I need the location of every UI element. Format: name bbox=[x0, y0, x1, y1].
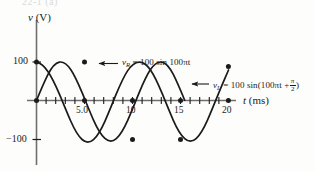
x-tick-label-15: 15 bbox=[174, 106, 184, 116]
data-point bbox=[178, 98, 183, 103]
data-point bbox=[82, 98, 87, 103]
y-tick-label-minus100: −100 bbox=[6, 134, 27, 144]
x-axis-title-unit: (ms) bbox=[249, 94, 269, 106]
y-tick-label-100: 100 bbox=[13, 56, 28, 66]
x-tick-label-10: 10 bbox=[126, 106, 136, 116]
data-point bbox=[178, 137, 183, 142]
x-tick-label-5: 5.0 bbox=[76, 106, 88, 116]
data-point bbox=[34, 98, 39, 103]
data-point bbox=[82, 60, 87, 65]
x-tick-label-20: 20 bbox=[222, 106, 232, 116]
vL-subscript: L bbox=[217, 84, 221, 91]
vR-expression: 100 sin 100πt bbox=[140, 57, 190, 67]
vR-curve bbox=[37, 62, 185, 141]
data-point bbox=[130, 137, 135, 142]
vR-subscript: R bbox=[126, 61, 130, 68]
y-axis-title: v (V) bbox=[28, 12, 51, 23]
vR-equation-label: vR = 100 sin 100πt bbox=[122, 58, 190, 69]
y-axis-title-unit: (V) bbox=[36, 11, 51, 23]
vR-equals: = bbox=[133, 57, 138, 67]
x-axis-title: t (ms) bbox=[243, 95, 269, 106]
vL-expression-prefix: 100 sin(100πt + bbox=[231, 80, 290, 90]
data-point bbox=[226, 64, 231, 69]
vL-expression-suffix: ) bbox=[296, 80, 299, 90]
vL-fraction-denominator: 2 bbox=[290, 86, 296, 93]
vL-equals: = bbox=[223, 80, 228, 90]
waveform-figure: 22-1 (a) bbox=[0, 0, 315, 172]
vL-fraction: π2 bbox=[290, 78, 296, 93]
vL-equation-label: vL = 100 sin(100πt +π2) bbox=[213, 78, 299, 93]
data-point bbox=[130, 98, 135, 103]
data-point bbox=[226, 98, 231, 103]
data-point bbox=[34, 60, 39, 65]
